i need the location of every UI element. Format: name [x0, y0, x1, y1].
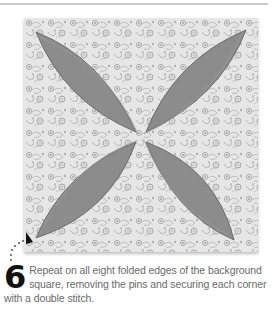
quilt-block-illustration: [24, 18, 258, 252]
top-divider: [0, 3, 268, 5]
step-text: Repeat on all eight folded edges of the …: [4, 264, 266, 304]
step-number: 6: [4, 264, 26, 290]
instruction-page: 6 Repeat on all eight folded edges of th…: [0, 0, 278, 309]
step-instruction: 6 Repeat on all eight folded edges of th…: [4, 263, 276, 305]
